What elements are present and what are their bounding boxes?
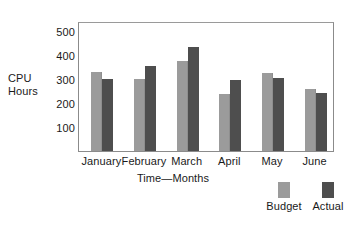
legend-item-actual: Actual <box>306 182 350 212</box>
bar-group <box>262 23 284 151</box>
x-axis-tick-label: March <box>171 155 202 168</box>
y-axis-tick-labels: 100200300400500 <box>45 22 75 152</box>
bar-actual-june <box>316 93 327 151</box>
legend-label: Budget <box>262 200 306 212</box>
bar-actual-january <box>102 79 113 151</box>
bar-budget-january <box>91 72 102 151</box>
legend-swatch-actual-icon <box>322 182 334 198</box>
x-axis-tick-labels: JanuaryFebruaryMarchAprilMayJune <box>78 155 334 171</box>
bar-actual-may <box>273 78 284 151</box>
bar-budget-april <box>219 94 230 151</box>
bar-group <box>91 23 113 151</box>
x-axis-tick-label: May <box>261 155 282 168</box>
legend-swatch-budget-icon <box>278 182 290 198</box>
bar-budget-may <box>262 73 273 151</box>
bar-budget-february <box>134 79 145 151</box>
y-axis-tick-label: 200 <box>45 98 75 109</box>
bar-actual-april <box>230 80 241 151</box>
x-axis-tick-label: January <box>81 155 121 168</box>
chart-legend: BudgetActual <box>262 182 350 222</box>
bar-group <box>305 23 327 151</box>
bar-group <box>134 23 156 151</box>
y-axis-tick-label: 500 <box>45 26 75 37</box>
bar-group <box>177 23 199 151</box>
x-axis-tick-label: April <box>218 155 241 168</box>
x-axis-title: Time—Months <box>78 172 268 185</box>
y-axis-tick-label: 100 <box>45 122 75 133</box>
bar-group <box>219 23 241 151</box>
legend-label: Actual <box>306 200 350 212</box>
bar-budget-march <box>177 61 188 151</box>
bar-actual-february <box>145 66 156 151</box>
bar-actual-march <box>188 47 199 151</box>
x-axis-tick-label: February <box>122 155 167 168</box>
legend-item-budget: Budget <box>262 182 306 212</box>
bar-budget-june <box>305 89 316 151</box>
plot-area <box>79 23 333 151</box>
bar-chart-figure: CPU Hours 100200300400500 JanuaryFebruar… <box>0 0 355 226</box>
y-axis-tick-label: 400 <box>45 50 75 61</box>
plot-frame <box>78 22 334 152</box>
y-axis-tick-label: 300 <box>45 74 75 85</box>
x-axis-tick-label: June <box>303 155 327 168</box>
